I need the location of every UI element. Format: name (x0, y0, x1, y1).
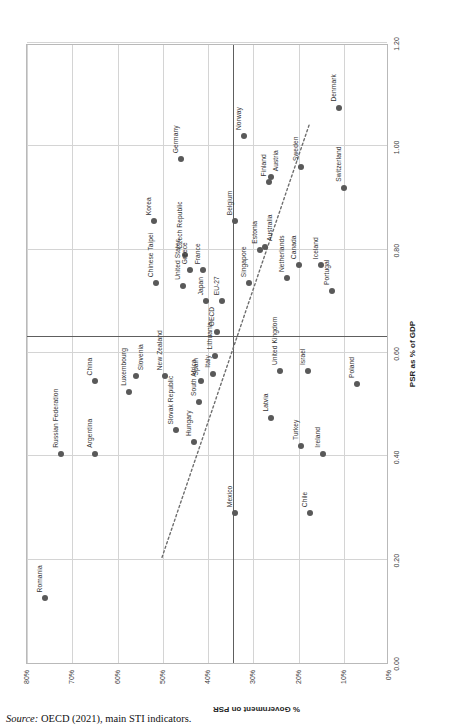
data-point[interactable] (262, 244, 268, 250)
data-point-label: Hungary (185, 410, 192, 436)
x-tick-label: 0.40 (393, 451, 400, 465)
y-tick-label: 10% (339, 670, 346, 694)
gridline-horizontal (72, 45, 73, 663)
reference-line-horizontal (233, 45, 234, 663)
data-point-label: Germany (172, 125, 179, 153)
y-tick-label: 30% (249, 670, 256, 694)
y-tick-label: 80% (23, 670, 30, 694)
gridline-vertical (27, 42, 387, 43)
data-point[interactable] (296, 262, 302, 268)
data-point[interactable] (219, 298, 225, 304)
data-point-label: Australia (266, 215, 273, 242)
trendline (27, 45, 387, 663)
data-point-label: Portugal (323, 260, 330, 285)
data-point-label: Canada (290, 235, 297, 259)
data-point[interactable] (246, 280, 252, 286)
data-point-label: Spain (192, 358, 199, 375)
data-point-label: China (86, 358, 93, 376)
data-point[interactable] (173, 428, 179, 434)
data-point[interactable] (266, 180, 272, 186)
data-point[interactable] (232, 510, 238, 516)
data-point[interactable] (126, 389, 132, 395)
data-point[interactable] (268, 174, 274, 180)
data-point-label: Korea (145, 197, 152, 215)
data-point-label: Chinese Taipei (147, 233, 154, 278)
data-point[interactable] (133, 373, 139, 379)
data-point-label: Poland (348, 357, 355, 378)
data-point[interactable] (329, 288, 335, 294)
gridline-vertical (27, 249, 387, 250)
data-point[interactable] (198, 378, 204, 384)
data-point[interactable] (298, 164, 304, 170)
x-tick-label: 0.20 (393, 554, 400, 568)
gridline-horizontal (208, 45, 209, 663)
data-point-label: Sweden (292, 137, 299, 161)
x-tick-label: 1.00 (393, 141, 400, 155)
data-point[interactable] (58, 451, 64, 457)
data-point-label: Romania (36, 565, 43, 592)
x-tick-label: 0.80 (393, 244, 400, 258)
gridline-horizontal (344, 45, 345, 663)
data-point[interactable] (153, 280, 159, 286)
data-point[interactable] (200, 267, 206, 273)
data-point-label: Greece (181, 242, 188, 264)
x-tick-label: 0.60 (393, 347, 400, 361)
data-point-label: Turkey (292, 419, 299, 440)
source-text: OECD (2021), main STI indicators. (38, 713, 191, 724)
data-point-label: Japan (197, 277, 204, 295)
y-tick-label: 60% (113, 670, 120, 694)
data-point[interactable] (196, 399, 202, 405)
data-point[interactable] (214, 329, 220, 335)
x-tick-label: 0.00 (393, 657, 400, 671)
data-point[interactable] (232, 218, 238, 224)
y-tick-label: 50% (158, 670, 165, 694)
data-point[interactable] (187, 267, 193, 273)
data-point[interactable] (210, 371, 216, 377)
gridline-horizontal (253, 45, 254, 663)
data-point-label: Chile (301, 492, 308, 508)
data-point[interactable] (298, 443, 304, 449)
data-point[interactable] (341, 185, 347, 191)
gridline-horizontal (118, 45, 119, 663)
data-point-label: Latvia (262, 393, 269, 411)
gridline-vertical (27, 145, 387, 146)
data-point-label: Denmark (330, 74, 337, 101)
data-point-label: EU-27 (213, 276, 220, 295)
data-point[interactable] (203, 298, 209, 304)
data-point[interactable] (241, 133, 247, 139)
data-point[interactable] (42, 595, 48, 601)
gridline-horizontal (27, 45, 28, 663)
plot-area: RomaniaRussian FederationArgentinaChinaL… (26, 44, 388, 664)
scatter-chart: RomaniaRussian FederationArgentinaChinaL… (0, 0, 452, 728)
data-point-label: United Kingdom (271, 317, 278, 365)
data-point[interactable] (305, 368, 311, 374)
data-point[interactable] (180, 283, 186, 289)
data-point[interactable] (336, 105, 342, 111)
data-point[interactable] (178, 156, 184, 162)
data-point[interactable] (191, 439, 197, 445)
data-point-label: Russian Federation (52, 389, 59, 448)
rotated-figure-container: RomaniaRussian FederationArgentinaChinaL… (0, 0, 452, 728)
data-point[interactable] (284, 275, 290, 281)
y-tick-label: 0% (385, 670, 392, 694)
data-point-label: Singapore (240, 246, 247, 277)
data-point-label: Belgium (226, 191, 233, 216)
data-point[interactable] (151, 218, 157, 224)
data-point-label: Estonia (251, 221, 258, 244)
data-point[interactable] (320, 451, 326, 457)
data-point-label: Switzerland (335, 146, 342, 181)
data-point-label: Argentina (86, 419, 93, 448)
data-point[interactable] (92, 378, 98, 384)
y-tick-label: 70% (68, 670, 75, 694)
x-axis-title: PSR as % of GDP (408, 44, 417, 664)
data-point[interactable] (268, 415, 274, 421)
data-point[interactable] (354, 381, 360, 387)
data-point-label: Austria (272, 150, 279, 171)
data-point[interactable] (212, 353, 218, 359)
data-point[interactable] (92, 451, 98, 457)
data-point-label: Netherlands (278, 235, 285, 272)
data-point-label: Slovak Republic (167, 376, 174, 425)
data-point[interactable] (277, 368, 283, 374)
source-prefix: Source: (6, 713, 38, 724)
data-point[interactable] (307, 510, 313, 516)
